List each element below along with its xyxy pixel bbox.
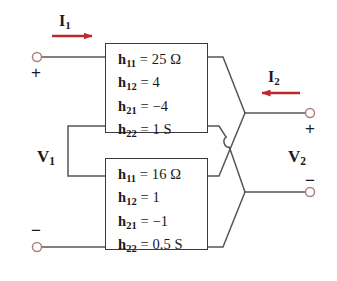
param-symbol: h: [118, 98, 126, 114]
param-symbol: h: [118, 166, 126, 182]
wire-top-box-out-lower-continue: [230, 148, 246, 193]
param-subscript: 22: [126, 128, 137, 139]
current-label-i2: I2: [268, 68, 280, 87]
param-subscript: 11: [126, 58, 136, 69]
param-relation: =: [140, 166, 148, 182]
top-two-port-box: h11 = 25 Ω h12 = 4 h21 = −4 h22 = 1 S: [105, 43, 208, 133]
current-subscript: 2: [274, 75, 280, 87]
param-h12-top: h12 = 4: [118, 73, 181, 96]
param-relation: =: [140, 51, 148, 67]
param-h11-bottom: h11 = 16 Ω: [118, 165, 183, 188]
param-h22-top: h22 = 1 S: [118, 120, 181, 143]
voltage-subscript: 2: [300, 155, 306, 167]
two-port-network-figure: h11 = 25 Ω h12 = 4 h21 = −4 h22 = 1 S: [0, 0, 337, 281]
param-relation: =: [140, 189, 148, 205]
bottom-two-port-box: h11 = 16 Ω h12 = 1 h21 = −1 h22 = 0.5 S: [105, 158, 208, 250]
polarity-plus-output: +: [305, 120, 315, 137]
param-symbol: h: [118, 189, 126, 205]
voltage-label-v2: V2: [288, 147, 306, 167]
param-subscript: 12: [126, 81, 137, 92]
voltage-symbol: V: [37, 147, 49, 166]
top-parameter-list: h11 = 25 Ω h12 = 4 h21 = −4 h22 = 1 S: [118, 50, 181, 144]
polarity-minus-input: −: [31, 222, 41, 239]
param-relation: =: [140, 74, 148, 90]
wire-bottom-box-out-lower: [208, 192, 245, 247]
param-value: −1: [152, 213, 168, 229]
current-subscript: 1: [65, 19, 71, 31]
param-symbol: h: [118, 213, 126, 229]
terminal-output-positive: [306, 109, 315, 118]
wire-left-series-loop: [68, 126, 105, 176]
param-symbol: h: [118, 236, 126, 252]
param-subscript: 21: [126, 220, 137, 231]
param-value: 1 S: [152, 121, 171, 137]
param-h12-bottom: h12 = 1: [118, 188, 183, 211]
polarity-plus-input: +: [31, 64, 41, 81]
param-h21-top: h21 = −4: [118, 97, 181, 120]
param-value: −4: [152, 98, 168, 114]
param-h11-top: h11 = 25 Ω: [118, 50, 181, 73]
wire-top-box-out-lower-crossing: [208, 126, 226, 137]
param-subscript: 11: [126, 173, 136, 184]
wire-bottom-box-out-upper: [208, 113, 245, 176]
wire-top-box-out-upper: [208, 57, 245, 113]
param-relation: =: [140, 213, 148, 229]
voltage-label-v1: V1: [37, 147, 55, 167]
terminal-input-positive: [33, 53, 42, 62]
wire-hop-arc: [224, 137, 230, 148]
param-relation: =: [140, 98, 148, 114]
param-symbol: h: [118, 121, 126, 137]
param-h22-bottom: h22 = 0.5 S: [118, 235, 183, 258]
polarity-minus-output: −: [305, 172, 315, 189]
param-relation: =: [140, 121, 148, 137]
param-value: 0.5 S: [152, 236, 182, 252]
param-h21-bottom: h21 = −1: [118, 212, 183, 235]
param-symbol: h: [118, 74, 126, 90]
param-relation: =: [140, 236, 148, 252]
param-value: 16 Ω: [152, 166, 181, 182]
current-label-i1: I1: [59, 12, 71, 31]
voltage-symbol: V: [288, 147, 300, 166]
param-value: 1: [152, 189, 159, 205]
param-value: 25 Ω: [152, 51, 181, 67]
bottom-parameter-list: h11 = 16 Ω h12 = 1 h21 = −1 h22 = 0.5 S: [118, 165, 183, 259]
param-value: 4: [152, 74, 159, 90]
param-subscript: 22: [126, 243, 137, 254]
param-subscript: 21: [126, 105, 137, 116]
voltage-subscript: 1: [49, 155, 55, 167]
param-symbol: h: [118, 51, 126, 67]
terminal-input-negative: [33, 243, 42, 252]
param-subscript: 12: [126, 196, 137, 207]
